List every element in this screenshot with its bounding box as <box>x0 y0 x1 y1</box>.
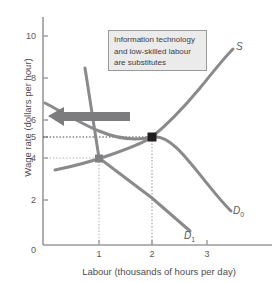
y-tick-label-2: 2 <box>22 195 36 205</box>
y-tick-label-10: 10 <box>22 31 36 41</box>
substitutes-note-box: Information technology and low-skilled l… <box>108 30 207 71</box>
economics-supply-demand-figure: 10 8 6 5 4 2 0 1 2 3 Wage rate (dollars … <box>0 0 278 283</box>
note-line-1: Information technology <box>114 34 202 46</box>
y-axis-title: Wage rate (dollars per hour) <box>22 43 33 193</box>
demand-D0-label-sub: 0 <box>240 211 244 218</box>
demand-shift-arrow <box>48 107 130 126</box>
demand-curve-D1-label: D1 <box>184 230 195 243</box>
demand-curve-D0-label: D0 <box>233 205 244 218</box>
x-tick-label-1: 1 <box>92 249 106 259</box>
x-tick-label-3: 3 <box>200 249 214 259</box>
initial-equilibrium-marker <box>148 133 157 142</box>
y-tick-label-0: 0 <box>22 245 36 255</box>
x-axis-title: Labour (thousands of hours per day) <box>43 266 275 277</box>
note-line-2: and low-skilled labour <box>114 46 202 58</box>
x-tick-label-2: 2 <box>145 249 159 259</box>
demand-curve-D1 <box>85 68 190 231</box>
note-line-3: are substitutes <box>114 57 202 69</box>
supply-curve-label: S <box>236 41 243 52</box>
new-equilibrium-marker <box>95 155 103 163</box>
demand-D1-label-sub: 1 <box>191 236 195 243</box>
supply-curve-label-text: S <box>236 41 243 52</box>
